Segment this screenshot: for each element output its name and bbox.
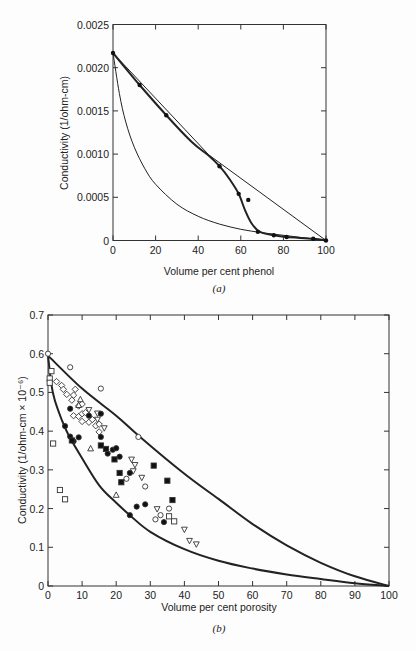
x-tick-label: 90 [349, 589, 361, 601]
square-open-marker [49, 369, 54, 374]
y-tick-label: 0.0005 [77, 191, 109, 203]
circle-filled-marker [127, 513, 132, 518]
circle-open-marker [45, 351, 50, 356]
triangle-down-open-marker [187, 538, 193, 543]
x-tick-label: 40 [192, 244, 204, 256]
triangle-down-open-marker [101, 426, 107, 431]
x-tick-label: 50 [213, 589, 225, 601]
triangle-down-open-marker [139, 475, 145, 480]
x-tick-label: 40 [179, 589, 191, 601]
data-point [311, 237, 315, 241]
square-open-marker [57, 487, 62, 492]
circle-open-marker [68, 365, 73, 370]
data-point [164, 113, 168, 117]
y-tick-label: 0.4 [29, 425, 44, 437]
chart-a-ylabel: Conductivity (1/ohm-cm) [58, 76, 70, 190]
y-tick-label: 0.0015 [77, 105, 109, 117]
circle-filled-marker [127, 470, 132, 475]
chart-a-xlabel: Volume per cent phenol [164, 265, 274, 277]
circle-filled-marker [114, 446, 119, 451]
chart-b: 010203040506070809010000.10.20.30.40.50.… [16, 309, 398, 635]
square-filled-marker [170, 497, 175, 502]
y-tick-label: 0.6 [29, 348, 44, 360]
chart-a-curve [113, 53, 326, 240]
diamond-open-marker [53, 378, 59, 384]
square-open-marker [166, 514, 171, 519]
circle-open-marker [143, 484, 148, 489]
chart-b-markers [45, 351, 199, 547]
y-tick-label: 0.2 [29, 503, 44, 515]
x-tick-label: 70 [281, 589, 293, 601]
x-tick-label: 30 [144, 589, 156, 601]
chart-b-plot-frame [48, 315, 389, 586]
triangle-down-open-marker [129, 457, 135, 462]
chart-a-markers [111, 51, 328, 243]
x-tick-label: 60 [235, 244, 247, 256]
x-tick-label: 20 [150, 244, 162, 256]
chart-b-ylabel: Conductivity (1/ohm-cm × 10⁻⁶) [16, 376, 28, 524]
chart-a-lines [113, 53, 326, 241]
data-point [324, 238, 328, 242]
y-tick-label: 0.3 [29, 464, 44, 476]
chart-a: 02040608010000.00050.00100.00150.00200.0… [58, 19, 335, 296]
data-point [217, 164, 221, 168]
y-tick-label: 0 [38, 580, 44, 592]
figure: 02040608010000.00050.00100.00150.00200.0… [0, 0, 416, 651]
data-point [256, 230, 260, 234]
x-tick-label: 20 [110, 589, 122, 601]
circle-open-marker [124, 476, 129, 481]
triangle-down-open-marker [154, 507, 160, 512]
circle-open-marker [136, 434, 141, 439]
triangle-up-open-marker [77, 396, 83, 401]
square-filled-marker [165, 478, 170, 483]
square-filled-marker [151, 463, 156, 468]
y-tick-label: 0.1 [29, 541, 44, 553]
data-point [284, 235, 288, 239]
y-tick-label: 0.0025 [77, 19, 109, 31]
circle-open-marker [153, 517, 158, 522]
square-filled-marker [119, 480, 124, 485]
x-tick-label: 100 [380, 589, 398, 601]
circle-open-marker [98, 386, 103, 391]
x-tick-label: 80 [278, 244, 290, 256]
chart-b-axes: 010203040506070809010000.10.20.30.40.50.… [29, 309, 398, 601]
chart-b-xlabel: Volume per cent porosity [161, 601, 277, 613]
circle-filled-marker [68, 406, 73, 411]
square-filled-marker [112, 457, 117, 462]
x-tick-label: 10 [76, 589, 88, 601]
square-open-marker [47, 380, 52, 385]
square-filled-marker [103, 446, 108, 451]
diamond-open-marker [64, 391, 70, 397]
square-open-marker [172, 519, 177, 524]
data-point [137, 83, 141, 87]
circle-filled-marker [76, 435, 81, 440]
data-point [246, 198, 250, 202]
triangle-down-open-marker [193, 542, 199, 547]
circle-filled-marker [62, 424, 67, 429]
circle-filled-marker [86, 413, 91, 418]
circle-open-marker [166, 506, 171, 511]
data-point [111, 51, 115, 55]
diamond-open-marker [79, 418, 85, 424]
y-tick-label: 0 [103, 235, 109, 247]
circle-filled-marker [98, 434, 103, 439]
chart-a-plot-frame [113, 25, 326, 241]
circle-filled-marker [98, 411, 103, 416]
circle-filled-marker [134, 504, 139, 509]
square-filled-marker [117, 470, 122, 475]
x-tick-label: 0 [110, 244, 116, 256]
chart-b-caption: (b) [213, 622, 226, 635]
diamond-open-marker [72, 386, 78, 392]
chart-a-curve [113, 53, 326, 241]
data-point [236, 192, 240, 196]
x-tick-label: 0 [45, 589, 51, 601]
x-tick-label: 100 [317, 244, 335, 256]
circle-filled-marker [161, 520, 166, 525]
circle-filled-marker [143, 502, 148, 507]
triangle-down-open-marker [182, 527, 188, 532]
circle-filled-marker [117, 454, 122, 459]
triangle-up-open-marker [88, 445, 94, 450]
y-tick-label: 0.0020 [77, 62, 109, 74]
square-filled-marker [98, 443, 103, 448]
circle-open-marker [158, 513, 163, 518]
